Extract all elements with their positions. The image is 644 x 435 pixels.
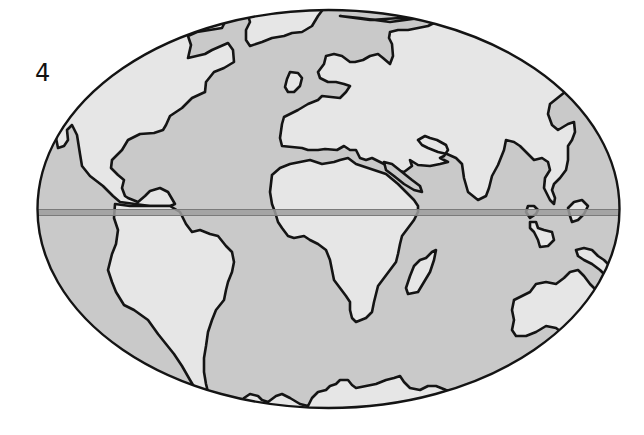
world-map xyxy=(0,0,644,435)
equator-line xyxy=(30,209,630,216)
